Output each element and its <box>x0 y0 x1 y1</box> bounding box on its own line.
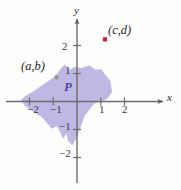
point-cd-label: (c,d) <box>108 24 131 37</box>
plot-canvas <box>0 0 181 190</box>
point-ab-marker[interactable] <box>55 76 59 80</box>
ytick-label-neg2: −2 <box>59 148 71 159</box>
xtick-label-neg2: −2 <box>27 104 39 115</box>
coordinate-plane-figure: −2 −1 1 2 2 1 −1 −2 x y (a,b) (c,d) P <box>0 0 181 190</box>
region-P-label: P <box>64 80 72 93</box>
xtick-label-neg1: −1 <box>50 104 62 115</box>
y-axis-label: y <box>74 5 79 16</box>
point-cd-marker[interactable] <box>103 37 107 41</box>
ytick-label-pos1: 1 <box>65 65 71 76</box>
xtick-label-pos2: 2 <box>122 104 128 115</box>
ytick-label-neg1: −1 <box>59 121 71 132</box>
point-ab-label: (a,b) <box>21 60 45 73</box>
x-axis-label: x <box>167 92 172 103</box>
ytick-label-pos2: 2 <box>62 41 68 52</box>
xtick-label-pos1: 1 <box>99 104 105 115</box>
